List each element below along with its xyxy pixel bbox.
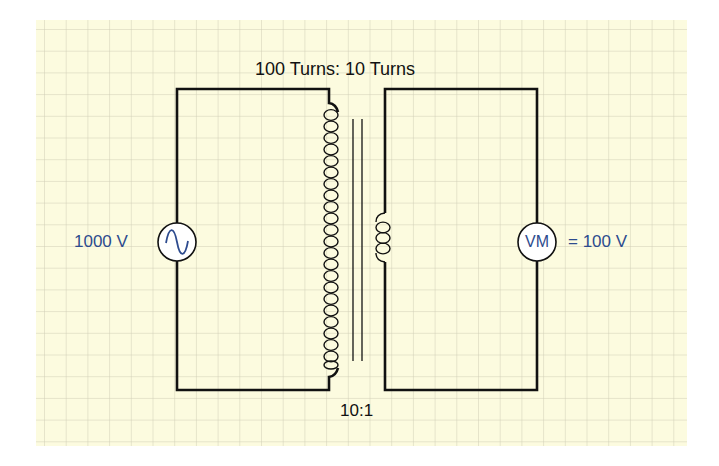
voltmeter-symbol: VM — [518, 233, 556, 251]
turns-ratio-title: 100 Turns: 10 Turns — [255, 60, 415, 78]
ratio-label: 10:1 — [340, 402, 373, 419]
source-voltage-label: 1000 V — [74, 233, 128, 250]
transformer-diagram: 100 Turns: 10 Turns 10:1 1000 V VM = 100… — [0, 0, 719, 466]
meter-reading-label: = 100 V — [568, 233, 627, 250]
ac-source-icon — [158, 223, 196, 261]
